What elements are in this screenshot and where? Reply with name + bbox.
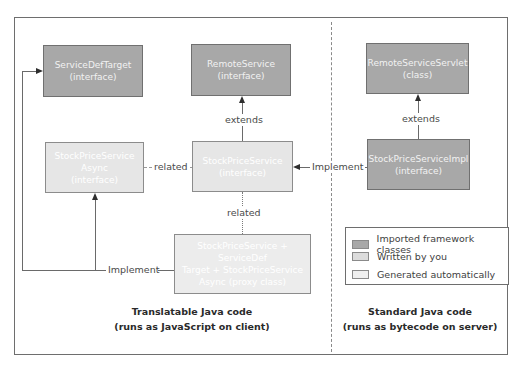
box-name: ServiceDefTarget [55,59,132,71]
extends-left-arrow-icon [239,96,245,103]
legend-swatch-imported [352,240,369,249]
box-kind: (interface) [69,71,116,83]
client-caption-subtitle: (runs as JavaScript on client) [92,319,292,334]
box-kind: (interface) [395,165,442,177]
stock-price-service-impl-box: StockPriceServiceImpl (interface) [367,139,470,190]
remote-service-servlet-box: RemoteServiceServlet (class) [366,43,469,94]
box-name: StockPriceServiceImpl [369,153,469,165]
implement-left-line-to-proxy [158,270,174,271]
client-caption: Translatable Java code (runs as JavaScri… [92,304,292,334]
service-def-target-box: ServiceDefTarget (interface) [43,45,143,97]
legend-label: Written by you [377,251,447,262]
legend-swatch-written [352,252,369,261]
implement-left-label: Implement [108,264,159,276]
box-name: RemoteServiceServlet [368,57,468,69]
box-kind: (interface) [219,167,266,179]
legend-item-written: Written by you [352,251,447,262]
stock-price-service-box: StockPriceService (interface) [192,141,293,192]
legend: Imported framework classes Written by yo… [345,227,509,285]
extends-left-label: extends [224,114,264,126]
stock-price-service-async-box: StockPriceService Async (interface) [45,142,144,193]
server-caption-subtitle: (runs as bytecode on server) [332,319,508,334]
server-caption: Standard Java code (runs as bytecode on … [332,304,508,334]
box-name-2: Async [81,162,108,174]
client-server-divider [331,22,332,352]
proxy-line-1: StockPriceService + ServiceDef [175,240,310,264]
implement-to-async-line [95,200,96,270]
box-name: StockPriceService [202,155,282,167]
box-kind: (interface) [71,174,118,186]
legend-item-generated: Generated automatically [352,269,495,280]
implement-right-arrow-icon [293,164,300,170]
remote-service-box: RemoteService (interface) [191,44,291,96]
implement-to-async-arrow-icon [92,193,98,200]
implement-to-servicedef-horizontal [22,71,36,72]
box-kind: (interface) [217,70,264,82]
proxy-line-2: Target + StockPriceService [182,264,303,276]
implement-left-line-horizontal [22,270,106,271]
related-vertical-label: related [226,207,262,219]
proxy-line-3: Async (proxy class) [199,276,286,288]
client-caption-title: Translatable Java code [92,304,292,319]
implement-to-servicedef-vertical [22,71,23,271]
box-name: StockPriceService [54,150,134,162]
server-caption-title: Standard Java code [332,304,508,319]
implement-to-servicedef-arrow-icon [36,68,43,74]
related-horizontal-label: related [152,161,190,173]
extends-right-label: extends [401,113,441,125]
implement-right-label: Implement [310,161,365,173]
generated-proxy-box: StockPriceService + ServiceDef Target + … [174,234,311,294]
box-name: RemoteService [207,58,275,70]
extends-right-arrow-icon [415,94,421,101]
legend-label: Generated automatically [377,269,495,280]
box-kind: (class) [403,69,432,81]
legend-swatch-generated [352,270,369,279]
